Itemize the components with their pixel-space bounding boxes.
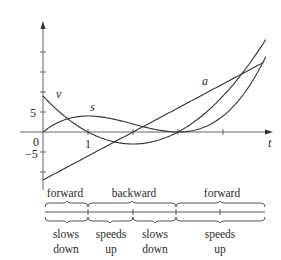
speed-labels: slows down speeds up slows down speeds u… [53, 228, 236, 256]
speed-label-4-line1: speeds [205, 228, 236, 241]
label-a: a [202, 74, 208, 88]
direction-label-backward: backward [112, 187, 157, 199]
direction-label-forward-2: forward [204, 187, 241, 199]
label-s: s [90, 100, 95, 114]
speed-label-3-line2: down [142, 243, 168, 255]
interval-brackets [45, 201, 265, 223]
speed-label-3-line1: slows [142, 228, 169, 240]
y-axis-arrow-icon [41, 21, 46, 29]
direction-label-forward-1: forward [47, 187, 84, 199]
label-v: v [56, 87, 62, 101]
speed-label-1-line2: down [53, 243, 79, 255]
y-tick-label-5: 5 [30, 106, 36, 120]
speed-label-4-line2: up [214, 243, 226, 256]
x-tick-label-1: 1 [85, 137, 91, 151]
velocity-curve-v [43, 40, 266, 144]
y-tick-label-neg5: −5 [25, 147, 38, 161]
acceleration-line-a [43, 62, 264, 180]
motion-graph-figure: v s a t 5 0 −5 1 forward backward forwar… [0, 0, 281, 260]
x-axis-arrow-icon [265, 130, 273, 135]
speed-label-2-line1: speeds [96, 228, 127, 241]
label-t: t [268, 136, 272, 150]
speed-label-1-line1: slows [53, 228, 80, 240]
speed-label-2-line2: up [105, 243, 117, 256]
axes [20, 26, 268, 190]
